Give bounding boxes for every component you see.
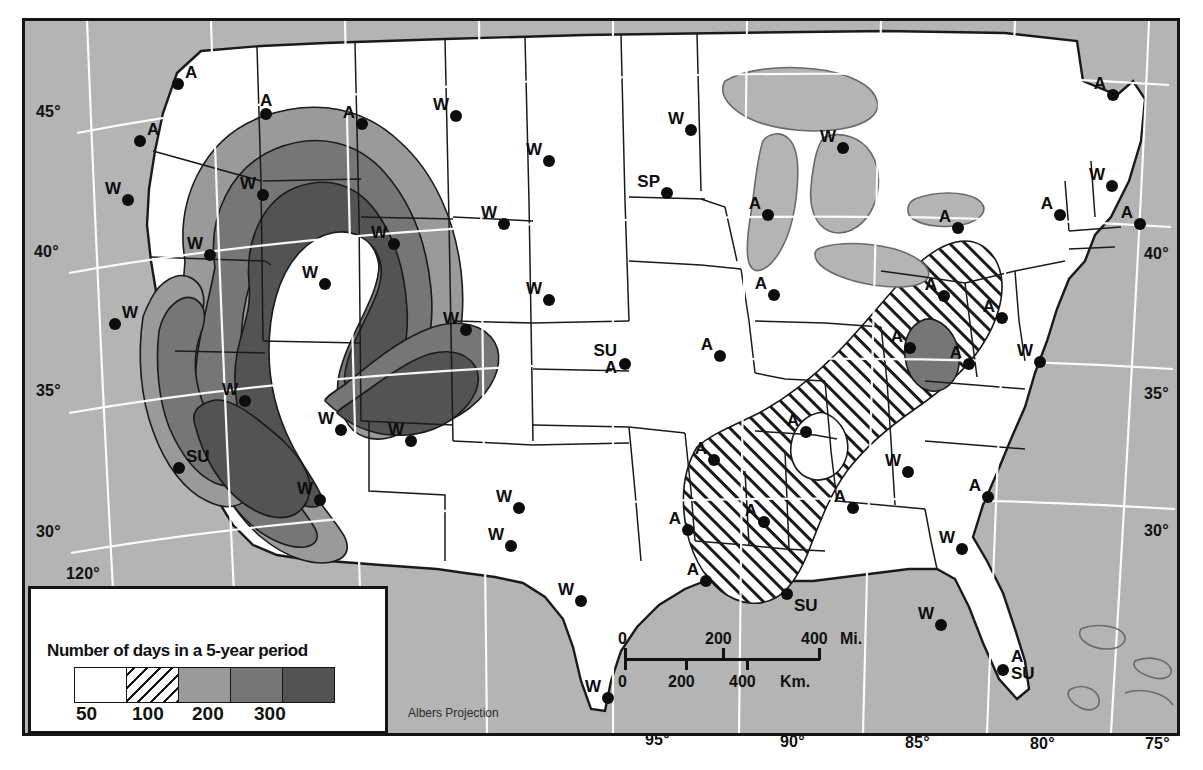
station-label: A: [687, 561, 699, 578]
station-label: W: [918, 605, 934, 622]
station-dot: [513, 502, 525, 514]
station-label: A: [701, 336, 713, 353]
station-dot: [938, 290, 950, 302]
station-dot: [714, 350, 726, 362]
graticule-lat-left-0: 45°: [36, 103, 61, 121]
graticule-lat-left-2: 35°: [36, 382, 61, 400]
station-dot: [1034, 356, 1046, 368]
station-label: A: [669, 510, 681, 527]
station-dot: [768, 289, 780, 301]
station-dot: [356, 118, 368, 130]
legend-tick-200: 200: [192, 703, 224, 725]
station-dot: [956, 543, 968, 555]
station-label: A: [834, 488, 846, 505]
station-label: A: [260, 92, 272, 109]
station-label: W: [222, 381, 238, 398]
station-dot: [257, 189, 269, 201]
station-label: A: [1121, 204, 1133, 221]
graticule-lon-bottom-0: 95°: [645, 731, 670, 749]
scale-unit-miles: Mi.: [840, 630, 862, 648]
station-label: A: [185, 64, 197, 81]
scale-label-km-400: 400: [729, 673, 756, 691]
station-label: W: [1017, 342, 1033, 359]
legend-tick-labels: 50100200300: [74, 703, 332, 725]
station-dot: [997, 664, 1009, 676]
station-label: A: [147, 121, 159, 138]
station-dot: [172, 78, 184, 90]
station-dot: [335, 424, 347, 436]
graticule-lon-bottom-2: 85°: [905, 734, 930, 752]
scale-label-mi-400: 400: [801, 630, 828, 648]
scale-tick-km-400: [746, 658, 749, 670]
station-label: W: [297, 480, 313, 497]
station-dot: [109, 318, 121, 330]
graticule-lat-left-1: 40°: [34, 243, 59, 261]
graticule-lon-bottom-3: 80°: [1030, 735, 1055, 753]
scale-label-mi-0: 0: [618, 630, 627, 648]
station-label: W: [240, 175, 256, 192]
station-dot: [700, 575, 712, 587]
station-label: W: [526, 141, 542, 158]
station-label: W: [122, 304, 138, 321]
station-label: W: [318, 410, 334, 427]
graticule-lon-bottom-1: 90°: [780, 733, 805, 751]
legend-tick-300: 300: [254, 703, 286, 725]
graticule-lat-right-0: 40°: [1144, 245, 1169, 263]
station-dot: [460, 324, 472, 336]
station-label: A: [969, 477, 981, 494]
station-label: W: [187, 235, 203, 252]
station-dot: [935, 619, 947, 631]
station-label: W: [388, 421, 404, 438]
station-label: SU: [794, 597, 818, 614]
station-dot: [619, 358, 631, 370]
station-dot: [837, 142, 849, 154]
station-label: A: [755, 275, 767, 292]
projection-note: Albers Projection: [408, 706, 499, 720]
station-label: W: [939, 529, 955, 546]
scale-label-km-200: 200: [668, 673, 695, 691]
station-label: W: [668, 110, 684, 127]
map-legend: Number of days in a 5-year period 501002…: [28, 586, 388, 734]
station-label: W: [481, 204, 497, 221]
station-dot: [781, 588, 793, 600]
legend-swatch-100-200: [179, 668, 231, 702]
station-label: ASU: [1011, 648, 1035, 682]
station-dot: [204, 249, 216, 261]
station-dot: [682, 524, 694, 536]
station-dot: [319, 278, 331, 290]
legend-title: Number of days in a 5-year period: [47, 641, 377, 661]
scale-label-mi-200: 200: [705, 630, 732, 648]
scale-tick-mi-200: [722, 648, 725, 660]
scale-bar: 0 200 400 Mi. 0 200 400 Km.: [612, 630, 842, 700]
station-dot: [405, 435, 417, 447]
station-dot: [543, 294, 555, 306]
station-label: W: [1089, 166, 1105, 183]
station-label: W: [488, 526, 504, 543]
station-dot: [952, 222, 964, 234]
station-label: W: [105, 180, 121, 197]
station-label: A: [1094, 75, 1106, 92]
station-dot: [134, 135, 146, 147]
station-dot: [685, 124, 697, 136]
scale-tick-km-200: [685, 658, 688, 670]
legend-tick-100: 100: [132, 703, 164, 725]
graticule-lat-right-2: 30°: [1144, 522, 1169, 540]
scale-label-km-0: 0: [618, 673, 627, 691]
station-dot: [450, 110, 462, 122]
map-page: 45°40°35°30°40°35°30°95°90°85°80°75°120°…: [0, 0, 1203, 770]
station-label: A: [939, 208, 951, 225]
station-label: A: [745, 502, 757, 519]
station-label: W: [496, 488, 512, 505]
station-dot: [314, 494, 326, 506]
legend-swatches: [74, 667, 335, 703]
station-dot: [847, 502, 859, 514]
station-label: A: [983, 298, 995, 315]
station-label: A: [695, 440, 707, 457]
scale-unit-kilometers: Km.: [780, 673, 810, 691]
station-dot: [543, 155, 555, 167]
station-dot: [239, 395, 251, 407]
station-label: W: [433, 96, 449, 113]
station-dot: [904, 342, 916, 354]
station-dot: [902, 466, 914, 478]
station-dot: [505, 540, 517, 552]
